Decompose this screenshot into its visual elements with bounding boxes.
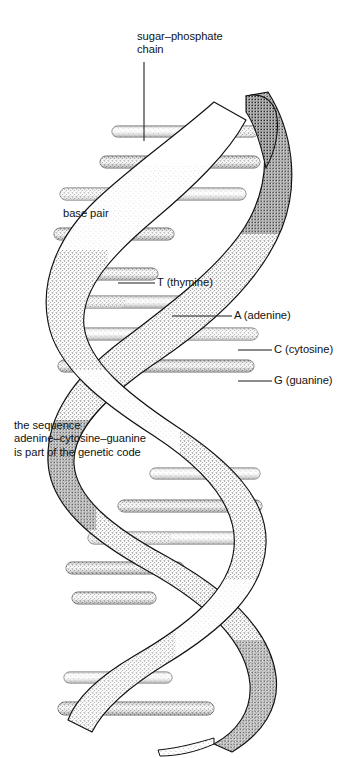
guanine-label: G (guanine) xyxy=(274,374,333,387)
thymine-label: T (thymine) xyxy=(157,276,213,289)
genetic-code-note-line1: the sequence xyxy=(14,419,81,431)
cytosine-label: C (cytosine) xyxy=(274,343,333,356)
sugar-phosphate-chain-label: sugar–phosphatechain xyxy=(137,30,223,57)
adenine-label: A (adenine) xyxy=(234,309,291,322)
genetic-code-note-line3: is part of the genetic code xyxy=(14,446,141,458)
genetic-code-note: the sequenceadenine–cytosine–guanineis p… xyxy=(14,419,146,459)
genetic-code-note-line2: adenine–cytosine–guanine xyxy=(14,432,146,444)
base-pair-rung xyxy=(72,592,156,604)
base-pair-label: base pair xyxy=(63,207,109,220)
sugar-phosphate-chain-line1: sugar–phosphate xyxy=(137,30,223,42)
ribbon-bottom-tails xyxy=(158,738,214,756)
sugar-phosphate-chain-line2: chain xyxy=(137,43,164,55)
